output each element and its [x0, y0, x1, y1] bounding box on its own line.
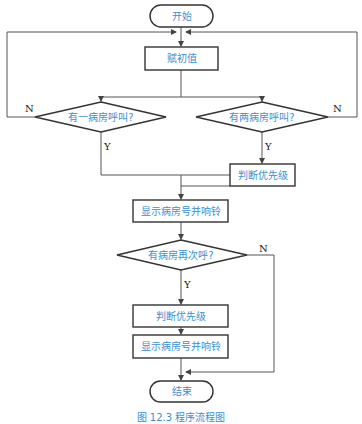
display-first-label: 显示病房号并响铃: [141, 205, 221, 217]
label-two-no: N: [333, 103, 342, 114]
end-label: 结束: [172, 385, 192, 397]
label-again-no: N: [259, 243, 268, 254]
end-terminal: 结束: [150, 381, 213, 402]
priority-right-label: 判断优先级: [238, 169, 288, 181]
init-label: 赋初值: [167, 52, 197, 64]
decision-two-diamond: 有两病房呼叫?: [196, 102, 328, 132]
init-process-box: 赋初值: [145, 47, 218, 70]
priority-bottom-label: 判断优先级: [156, 310, 206, 322]
decision-one-label: 有一病房呼叫?: [68, 111, 133, 123]
decision-again-label: 有病房再次呼?: [148, 249, 213, 261]
label-one-no: N: [25, 103, 34, 114]
decision-again-diamond: 有病房再次呼?: [117, 240, 247, 270]
decision-one-diamond: 有一病房呼叫?: [35, 102, 166, 132]
display-first-box: 显示病房号并响铃: [133, 200, 228, 222]
flowchart: 开始 赋初值 有一病房呼叫? 有两病房呼叫? 判断优先级 显示病房号并响铃 有病…: [0, 0, 362, 424]
priority-right-box: 判断优先级: [230, 164, 295, 186]
label-one-yes: Y: [103, 141, 111, 152]
priority-bottom-box: 判断优先级: [133, 305, 228, 327]
display-second-box: 显示病房号并响铃: [133, 335, 228, 358]
label-two-yes: Y: [264, 141, 272, 152]
start-label: 开始: [172, 10, 192, 22]
start-terminal: 开始: [150, 5, 213, 27]
display-second-label: 显示病房号并响铃: [141, 340, 221, 352]
decision-two-label: 有两病房呼叫?: [229, 111, 294, 123]
figure-caption: 图 12.3 程序流程图: [137, 411, 226, 423]
edge-two-no-loop: [186, 32, 357, 113]
label-again-yes: Y: [183, 279, 191, 290]
edge-merge-to-display: [181, 186, 230, 199]
